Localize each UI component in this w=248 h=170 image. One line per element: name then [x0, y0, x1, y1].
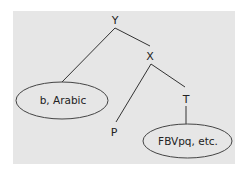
node-x-label: X: [146, 50, 154, 63]
node-p-label: P: [111, 126, 118, 139]
node-y-label: Y: [111, 14, 119, 27]
tree-diagram: Y X P T b, Arabic FBVpq, etc.: [0, 0, 248, 170]
leaf-label-fbvpq: FBVpq, etc.: [158, 135, 218, 147]
node-t-label: T: [182, 93, 190, 106]
leaf-label-b-arabic: b, Arabic: [40, 94, 87, 106]
